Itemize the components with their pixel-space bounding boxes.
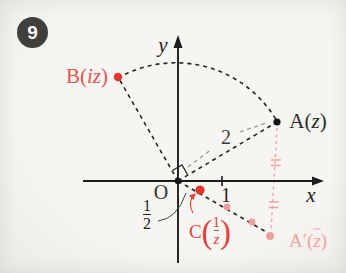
point-c-frac-num: 1	[213, 215, 221, 230]
unit-tick-label: 1	[221, 185, 231, 205]
radius-length-label: 2	[221, 127, 231, 147]
point-a-conj-var-overline: z	[313, 230, 320, 251]
point-a-conjugate-dot	[266, 232, 274, 240]
equal-tick-lower	[269, 202, 280, 208]
half-numerator: 1	[143, 198, 151, 214]
half-denominator: 2	[143, 214, 151, 232]
point-a-dot	[273, 118, 280, 125]
segment-o-b	[118, 77, 178, 181]
problem-number-badge: 9	[17, 17, 48, 48]
point-c-dot	[195, 185, 204, 194]
point-a-conj-name: A′	[289, 230, 307, 251]
point-b-name: B	[66, 64, 80, 88]
segment-a-a-conjugate	[271, 128, 277, 231]
point-c-label: C ( 1 z )	[189, 215, 231, 247]
x-axis-label: x	[306, 185, 315, 206]
point-b-close: )	[101, 64, 108, 88]
point-b-label: B(iz)	[66, 66, 108, 87]
point-c-name: C	[189, 222, 202, 241]
intermediate-dot-2	[249, 219, 256, 226]
point-a-label: A(z)	[289, 111, 326, 132]
point-c-close: )	[220, 216, 231, 245]
y-axis-arrowhead	[174, 35, 183, 48]
origin-dot	[175, 178, 181, 184]
origin-label: O	[154, 182, 168, 202]
point-c-frac-den: z	[213, 230, 219, 247]
point-b-dot	[114, 73, 122, 81]
point-b-var: iz	[87, 64, 101, 88]
figure-canvas: 9 y x O 1 2 1 2 A(z) B(iz) C ( 1 z ) A′(…	[0, 0, 346, 273]
half-length-label: 1 2	[143, 198, 151, 232]
radius-2-arc	[118, 63, 278, 123]
c-label-arrow	[190, 194, 195, 213]
y-axis-label: y	[158, 35, 167, 56]
problem-number: 9	[27, 22, 38, 44]
point-a-close: )	[320, 109, 327, 133]
point-c-open: (	[202, 216, 213, 245]
point-b-open: (	[80, 64, 87, 88]
point-a-name: A	[289, 109, 304, 133]
right-angle-mark	[173, 165, 188, 175]
point-a-conj-close: )	[321, 230, 327, 251]
point-a-conjugate-label: A′(z)	[289, 231, 327, 250]
